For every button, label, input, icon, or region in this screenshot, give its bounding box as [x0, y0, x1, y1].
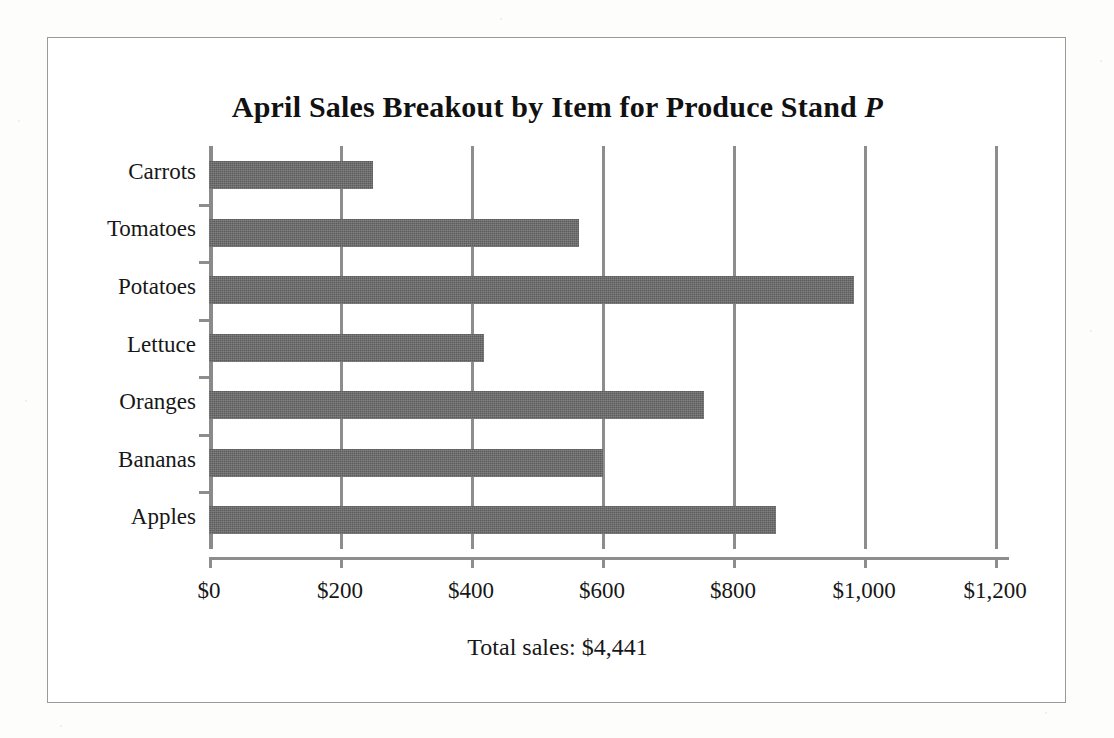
bar-bananas	[209, 449, 603, 477]
x-tick-label-200: $200	[317, 578, 363, 604]
y-axis-tick	[199, 434, 209, 437]
x-axis-tick-600	[602, 557, 605, 568]
category-label-lettuce: Lettuce	[46, 332, 196, 358]
scanned-page: April Sales Breakout by Item for Produce…	[0, 0, 1114, 738]
chart-title-italic-suffix: P	[865, 90, 884, 123]
x-axis-tick-0	[209, 557, 212, 568]
bar-row	[209, 204, 1006, 262]
chart-frame: April Sales Breakout by Item for Produce…	[47, 37, 1066, 703]
x-tick-label-1200: $1,200	[963, 578, 1026, 604]
x-axis-line	[209, 557, 1009, 560]
paper-speckle	[18, 120, 20, 122]
bar-carrots	[209, 161, 373, 189]
x-axis-tick-1200	[995, 557, 998, 568]
chart-title-text: April Sales Breakout by Item for Produce…	[232, 90, 865, 123]
category-axis-labels: CarrotsTomatoesPotatoesLettuceOrangesBan…	[48, 146, 196, 549]
paper-speckle	[1090, 330, 1092, 332]
bar-tomatoes	[209, 219, 579, 247]
paper-speckle	[1045, 712, 1047, 714]
y-axis-tick	[199, 491, 209, 494]
plot-area	[209, 146, 1006, 549]
chart-title: April Sales Breakout by Item for Produce…	[48, 90, 1067, 124]
bar-row	[209, 261, 1006, 319]
bar-oranges	[209, 391, 704, 419]
bar-lettuce	[209, 334, 484, 362]
y-axis-tick	[199, 319, 209, 322]
y-axis-tick	[199, 204, 209, 207]
x-tick-label-800: $800	[710, 578, 756, 604]
x-axis-tick-1000	[864, 557, 867, 568]
bar-apples	[209, 506, 776, 534]
paper-speckle	[500, 18, 502, 20]
category-label-tomatoes: Tomatoes	[46, 216, 196, 242]
y-axis-tick	[199, 261, 209, 264]
category-label-oranges: Oranges	[46, 389, 196, 415]
x-axis-tick-800	[733, 557, 736, 568]
paper-speckle	[25, 400, 27, 402]
x-tick-label-1000: $1,000	[832, 578, 895, 604]
x-axis-tick-400	[471, 557, 474, 568]
paper-speckle	[60, 725, 62, 727]
x-tick-label-400: $400	[448, 578, 494, 604]
x-axis-tick-200	[340, 557, 343, 568]
bar-row	[209, 319, 1006, 377]
bar-potatoes	[209, 276, 854, 304]
y-axis-tick	[199, 376, 209, 379]
bar-row	[209, 434, 1006, 492]
category-label-potatoes: Potatoes	[46, 274, 196, 300]
bar-row	[209, 146, 1006, 204]
x-tick-label-0: $0	[198, 578, 221, 604]
x-axis-tick-labels: $0$200$400$600$800$1,000$1,200	[209, 578, 1029, 612]
category-label-bananas: Bananas	[46, 447, 196, 473]
x-tick-label-600: $600	[579, 578, 625, 604]
category-label-apples: Apples	[46, 504, 196, 530]
paper-speckle	[1100, 60, 1102, 62]
bar-row	[209, 491, 1006, 549]
category-label-carrots: Carrots	[46, 159, 196, 185]
bar-row	[209, 376, 1006, 434]
total-sales-annotation: Total sales: $4,441	[48, 634, 1067, 661]
